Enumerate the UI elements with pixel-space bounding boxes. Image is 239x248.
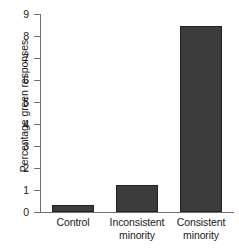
x-axis-line <box>40 212 234 213</box>
y-axis-tick <box>34 58 40 59</box>
y-axis-tick-label: 9 <box>9 9 29 19</box>
y-axis-tick <box>34 190 40 191</box>
y-axis-tick-label: 5 <box>9 97 29 107</box>
y-axis-tick <box>34 14 40 15</box>
y-axis-tick-label: 3 <box>9 141 29 151</box>
y-axis-tick <box>34 80 40 81</box>
y-axis-tick <box>34 212 40 213</box>
y-axis-tick-label: 0 <box>9 207 29 217</box>
y-axis-tick <box>34 146 40 147</box>
y-axis-tick <box>34 124 40 125</box>
y-axis-tick-label: 4 <box>9 119 29 129</box>
y-axis-tick-label: 7 <box>9 53 29 63</box>
bar <box>52 205 94 212</box>
y-axis-tick-label: 8 <box>9 31 29 41</box>
y-axis-tick <box>34 168 40 169</box>
y-axis-tick-label: 6 <box>9 75 29 85</box>
x-axis-category-label: Consistent minority <box>162 216 239 242</box>
y-axis-line <box>40 14 41 213</box>
y-axis-tick-label: 1 <box>9 185 29 195</box>
y-axis-tick <box>34 36 40 37</box>
bar-chart-figure: Percentage green responses 0123456789 Co… <box>0 0 239 248</box>
bar <box>116 185 158 213</box>
bar <box>180 26 222 212</box>
y-axis-tick <box>34 102 40 103</box>
y-axis-tick-label: 2 <box>9 163 29 173</box>
